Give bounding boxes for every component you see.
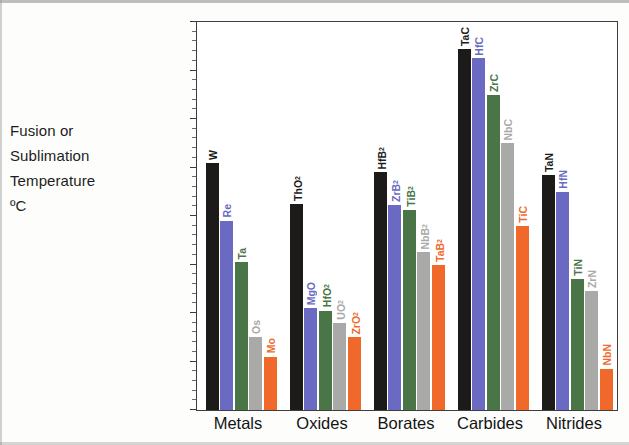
y-axis-minor-tick [192,273,196,274]
bar-TiB2[interactable] [403,210,416,410]
bar-HfB2[interactable] [374,172,387,410]
bar-TiC[interactable] [516,226,529,410]
bar-label-TiC: TiC [517,206,530,223]
y-axis-minor-tick [192,60,196,61]
x-axis-labels: MetalsOxidesBoratesCarbidesNitrides [196,414,618,444]
y-axis-minor-tick [192,79,196,80]
bar-ZrN[interactable] [585,291,598,410]
y-axis-minor-tick [192,108,196,109]
x-axis-label-metals: Metals [196,414,280,433]
bar-HfO2[interactable] [319,311,332,410]
y-axis-minor-tick [192,205,196,206]
bar-label-HfC: HfC [473,37,486,56]
bar-label-ZrC: ZrC [488,74,501,92]
bar-group-borates: HfB2ZrB2TiB2NbB2TaB2 [374,22,445,410]
bar-NbC[interactable] [501,143,514,410]
bar-label-W: W [207,150,220,160]
x-axis-label-nitrides: Nitrides [532,414,616,433]
scan-edge-top [0,0,629,3]
bar-NbN[interactable] [600,369,613,410]
bar-group-nitrides: TaNHfNTiNZrNNbN [542,22,613,410]
y-axis-minor-tick [192,137,196,138]
bar-label-NbN: NbN [601,344,614,366]
y-axis-minor-tick [192,351,196,352]
bar-UO2[interactable] [333,323,346,410]
y-axis-tick [190,312,196,313]
bar-label-TiB2: TiB2 [404,186,418,207]
bar-MgO[interactable] [304,308,317,410]
bar-label-UO2: UO2 [334,300,348,320]
y-axis-tick [190,70,196,71]
y-axis-minor-tick [192,225,196,226]
bar-label-Ta: Ta [236,248,249,259]
bar-TaB2[interactable] [432,265,445,411]
bar-ZrC[interactable] [487,95,500,410]
bar-label-NbC: NbC [502,119,515,141]
y-axis-minor-tick [192,341,196,342]
y-axis-minor-tick [192,370,196,371]
bar-HfC[interactable] [472,58,485,410]
y-axis-minor-tick [192,147,196,148]
y-axis-minor-tick [192,128,196,129]
bar-label-HfB2: HfB2 [375,147,389,170]
bar-TiN[interactable] [571,279,584,410]
y-axis-tick [190,118,196,119]
y-axis-minor-tick [192,331,196,332]
y-axis-tick [190,21,196,22]
bar-TaN[interactable] [542,175,555,410]
bar-label-ThO2: ThO2 [291,176,305,201]
bar-label-TaB2: TaB2 [433,239,447,262]
bar-Ta[interactable] [235,262,248,410]
bar-W[interactable] [206,163,219,410]
y-axis-minor-tick [192,293,196,294]
bar-HfN[interactable] [556,192,569,410]
y-axis-tick [190,361,196,362]
bar-group-metals: WReTaOsMo [206,22,277,410]
x-axis-label-carbides: Carbides [448,414,532,433]
y-axis-minor-tick [192,176,196,177]
y-axis-minor-tick [192,283,196,284]
bar-label-MgO: MgO [305,282,318,305]
bar-NbB2[interactable] [417,252,430,410]
y-axis-minor-tick [192,322,196,323]
bar-Os[interactable] [249,337,262,410]
x-axis-label-oxides: Oxides [280,414,364,433]
y-axis-minor-tick [192,390,196,391]
bar-label-ZrB2: ZrB2 [389,180,403,202]
bar-group-oxides: ThO2MgOHfO2UO2ZrO2 [290,22,361,410]
y-axis-minor-tick [192,186,196,187]
bar-group-carbides: TaCHfCZrCNbCTiC [458,22,529,410]
bars-layer: WReTaOsMoThO2MgOHfO2UO2ZrO2HfB2ZrB2TiB2N… [197,22,617,410]
bar-label-NbB2: NbB2 [418,224,432,250]
y-axis-minor-tick [192,244,196,245]
y-axis-minor-tick [192,40,196,41]
y-axis-minor-tick [192,399,196,400]
bar-label-ZrN: ZrN [586,270,599,288]
bar-ThO2[interactable] [290,204,303,410]
y-axis-tick [190,264,196,265]
bar-label-TaN: TaN [543,153,556,172]
bar-label-Mo: Mo [265,338,278,353]
bar-ZrB2[interactable] [388,205,401,410]
bar-label-HfO2: HfO2 [320,284,334,307]
y-axis-minor-tick [192,196,196,197]
y-axis-tick [190,215,196,216]
y-axis-minor-tick [192,31,196,32]
bar-label-TaC: TaC [459,27,472,46]
y-axis-minor-tick [192,254,196,255]
bar-label-TiN: TiN [572,259,585,276]
y-axis-minor-tick [192,234,196,235]
bar-label-Re: Re [221,204,234,217]
x-axis-label-borates: Borates [364,414,448,433]
y-axis-minor-tick [192,380,196,381]
bar-label-Os: Os [250,320,263,334]
y-axis-minor-tick [192,302,196,303]
bar-TaC[interactable] [458,49,471,410]
bar-ZrO2[interactable] [348,337,361,410]
bar-label-HfN: HfN [557,170,570,189]
y-axis-tick [190,167,196,168]
y-axis-minor-tick [192,157,196,158]
bar-Re[interactable] [220,221,233,410]
bar-Mo[interactable] [264,357,277,410]
y-axis-minor-tick [192,89,196,90]
